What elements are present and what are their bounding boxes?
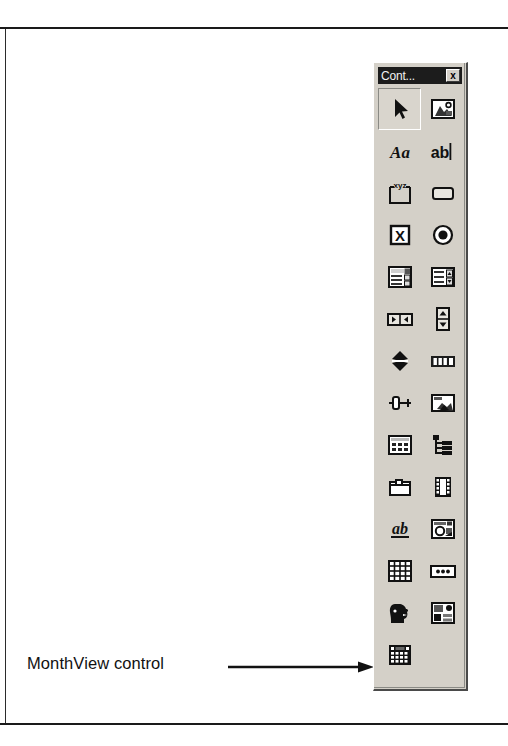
toolbox-icon-grid[interactable]: Aa ab xyz X [378, 88, 462, 676]
month-view-calendar-icon [386, 641, 414, 669]
tool-imagecombo[interactable] [421, 382, 464, 424]
monthview-callout: MonthView control [27, 648, 164, 678]
svg-text:X: X [394, 227, 404, 244]
tool-multimedia[interactable] [421, 592, 464, 634]
tool-vscrollbar[interactable] [421, 298, 464, 340]
frame-xyz-icon: xyz [386, 179, 414, 207]
rich-textbox-ab-icon: ab [386, 515, 414, 543]
tool-animation[interactable] [378, 592, 421, 634]
tool-optionbutton[interactable] [421, 214, 464, 256]
horizontal-scrollbar-icon [386, 305, 414, 333]
tree-view-icon [429, 431, 457, 459]
tool-slider[interactable] [378, 382, 421, 424]
tool-richtextbox[interactable]: ab [378, 508, 421, 550]
flex-grid-icon [386, 557, 414, 585]
status-bar-icon [429, 557, 457, 585]
tool-frame[interactable]: xyz [378, 172, 421, 214]
tool-combobox[interactable] [378, 256, 421, 298]
vertical-scrollbar-icon [429, 305, 457, 333]
tool-pointer[interactable] [378, 88, 421, 130]
list-box-icon [429, 263, 457, 291]
multimedia-panel-icon [429, 599, 457, 627]
tool-hscrollbar[interactable] [378, 298, 421, 340]
svg-text:ab: ab [392, 520, 408, 537]
tool-statusbar[interactable] [421, 550, 464, 592]
list-view-icon [386, 431, 414, 459]
toolbox-titlebar[interactable]: Cont... x [378, 67, 462, 84]
progress-bar-icon [429, 347, 457, 375]
arrow-pointer-icon [386, 95, 414, 123]
tool-imagelist[interactable] [421, 466, 464, 508]
tool-tabstrip[interactable] [378, 466, 421, 508]
controls-toolbox-window[interactable]: Cont... x Aa ab [373, 62, 468, 691]
tool-textbox[interactable]: ab [421, 130, 464, 172]
tool-listbox[interactable] [421, 256, 464, 298]
tool-coolbar[interactable] [421, 508, 464, 550]
tool-listview[interactable] [378, 424, 421, 466]
top-divider-rule [0, 27, 508, 29]
toolbox-title: Cont... [381, 70, 415, 82]
image-list-filmstrip-icon [429, 473, 457, 501]
svg-text:ab: ab [430, 144, 449, 161]
slider-icon [386, 389, 414, 417]
right-arrow-icon [228, 661, 374, 673]
coolbar-icon [429, 515, 457, 543]
svg-text:xyz: xyz [393, 181, 406, 190]
tool-commandbutton[interactable] [421, 172, 464, 214]
tool-flexgrid[interactable] [378, 550, 421, 592]
textbox-ab-icon: ab [429, 137, 457, 165]
option-button-icon [429, 221, 457, 249]
pointer-hand-panel-icon [429, 389, 457, 417]
tool-timer[interactable] [378, 340, 421, 382]
head-profile-icon [386, 599, 414, 627]
close-icon[interactable]: x [446, 69, 460, 82]
tool-checkbox[interactable]: X [378, 214, 421, 256]
svg-text:Aa: Aa [389, 143, 410, 162]
tool-monthview[interactable] [378, 634, 421, 676]
label-aa-icon: Aa [386, 137, 414, 165]
combo-box-icon [386, 263, 414, 291]
tool-progressbar[interactable] [421, 340, 464, 382]
tool-label[interactable]: Aa [378, 130, 421, 172]
timer-icon [386, 347, 414, 375]
picture-box-icon [429, 95, 457, 123]
tab-strip-icon [386, 473, 414, 501]
left-margin-rule [5, 29, 6, 723]
tool-picturebox[interactable] [421, 88, 464, 130]
callout-label: MonthView control [27, 655, 164, 672]
command-button-icon [429, 179, 457, 207]
tool-treeview[interactable] [421, 424, 464, 466]
checkbox-icon: X [386, 221, 414, 249]
bottom-divider-rule [0, 723, 508, 725]
